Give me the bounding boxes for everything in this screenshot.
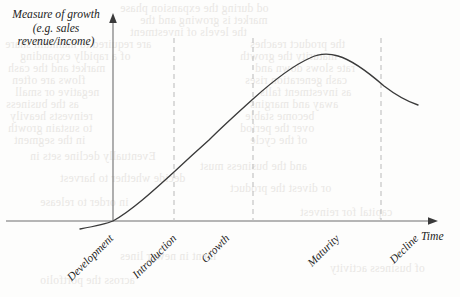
y-axis-label: Measure of growth (e.g. sales revenue/in… (2, 8, 110, 49)
x-axis (6, 217, 438, 225)
y-axis-arrowhead (109, 13, 117, 23)
y-axis-label-line-3: revenue/income) (2, 35, 110, 49)
stage-dividers (174, 38, 381, 221)
y-axis-label-line-1: Measure of growth (2, 8, 110, 22)
y-axis-label-line-2: (e.g. sales (2, 22, 110, 36)
figure-page: od during the expansion phasemarket is g… (0, 0, 460, 297)
y-axis (109, 13, 117, 221)
x-axis-arrowhead (428, 217, 438, 225)
lifecycle-curve (80, 54, 418, 229)
x-axis-label: Time (421, 230, 444, 243)
